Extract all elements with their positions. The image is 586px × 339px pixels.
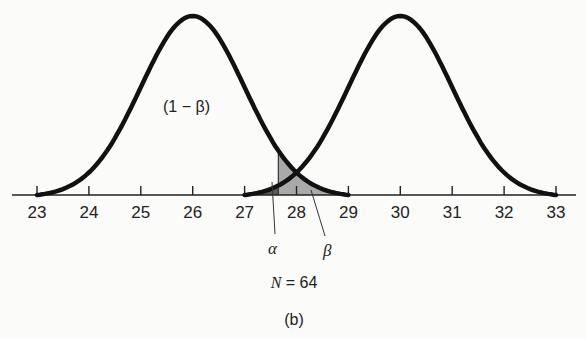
x-tick-label: 26 — [183, 203, 202, 222]
x-axis-ticks: 2324252627282930313233 — [28, 186, 566, 222]
power-analysis-chart: 2324252627282930313233 (1 − β) α β N = 6… — [0, 0, 586, 339]
power-label: (1 − β) — [163, 98, 210, 115]
x-tick-label: 30 — [391, 203, 410, 222]
x-tick-label: 23 — [28, 203, 47, 222]
x-tick-label: 28 — [287, 203, 306, 222]
beta-region — [278, 151, 348, 195]
x-tick-label: 27 — [235, 203, 254, 222]
sample-size-label: N = 64 — [270, 274, 318, 291]
x-tick-label: 31 — [443, 203, 462, 222]
x-tick-label: 29 — [339, 203, 358, 222]
beta-label: β — [322, 241, 332, 260]
beta-leader-line — [311, 190, 325, 236]
x-tick-label: 25 — [131, 203, 150, 222]
panel-label: (b) — [284, 311, 304, 328]
sample-size-value: = 64 — [281, 274, 317, 291]
alpha-label: α — [268, 239, 278, 258]
x-tick-label: 24 — [79, 203, 98, 222]
x-tick-label: 32 — [495, 203, 514, 222]
x-tick-label: 33 — [547, 203, 566, 222]
